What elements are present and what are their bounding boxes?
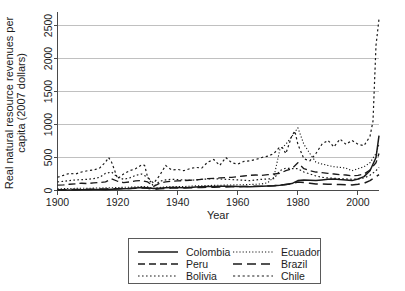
legend-label-ecuador: Ecuador (281, 246, 321, 258)
y-axis-label: Real natural resource revenues per capit… (3, 16, 27, 189)
legend-label-brazil: Brazil (281, 258, 307, 270)
gridlines (58, 26, 380, 158)
legend-label-peru: Peru (186, 258, 208, 270)
series-line-peru (58, 154, 380, 187)
x-tick-label: 1940 (166, 196, 190, 208)
x-axis-label: Year (207, 209, 230, 221)
x-tick-label: 1900 (46, 196, 70, 208)
x-tick-label: 1960 (226, 196, 250, 208)
x-axis-ticks: 190019201940196019802000 (46, 191, 370, 208)
y-tick-label: 1000 (42, 113, 54, 137)
y-tick-label: 1500 (42, 80, 54, 104)
chart-legend: ColombiaPeruBoliviaEcuadorBrazilChile (129, 239, 321, 284)
x-tick-label: 1920 (106, 196, 130, 208)
chart-figure: Real natural resource revenues per capit… (0, 0, 405, 291)
series-line-chile (58, 19, 380, 183)
y-axis-label-line1: Real natural resource revenues per (3, 16, 15, 189)
y-tick-label: 2500 (42, 14, 54, 38)
y-axis-label-line2: capita (2007 dollars) (15, 53, 27, 153)
y-tick-label: 0 (42, 187, 54, 193)
legend-label-bolivia: Bolivia (186, 270, 217, 282)
x-tick-label: 2000 (346, 196, 370, 208)
legend-label-colombia: Colombia (186, 246, 231, 258)
legend-label-chile: Chile (281, 270, 305, 282)
x-tick-label: 1980 (286, 196, 310, 208)
y-tick-label: 2000 (42, 47, 54, 71)
y-axis-ticks: 05001000150020002500 (42, 14, 57, 194)
y-tick-label: 500 (42, 149, 54, 167)
plot-series-group (58, 19, 380, 190)
